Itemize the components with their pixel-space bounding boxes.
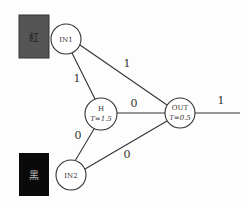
weight-in1-h: 1 [74,72,81,85]
diagram-svg: 紅 黑 IN1 IN2 H T=1.5 OUT T=0.5 1 1 0 0 0 … [0,0,248,208]
node-in2-label: IN2 [64,172,77,180]
weight-out: 1 [218,94,225,107]
weight-in2-h: 0 [75,129,82,142]
neural-network-diagram: 紅 黑 IN1 IN2 H T=1.5 OUT T=0.5 1 1 0 0 0 … [0,0,248,208]
node-in1-label: IN1 [59,36,72,44]
weight-in2-out: 0 [124,148,131,161]
swatch-text-black: 黑 [29,170,39,181]
weight-in1-out: 1 [124,57,131,70]
node-hidden [85,98,117,130]
node-hidden-label: H [98,105,104,113]
swatch-text-red: 紅 [29,32,39,43]
node-out [165,98,195,128]
node-out-threshold: T=0.5 [169,114,191,122]
weight-h-out: 0 [131,97,138,110]
node-hidden-threshold: T=1.5 [90,115,112,123]
node-out-label: OUT [172,104,189,112]
